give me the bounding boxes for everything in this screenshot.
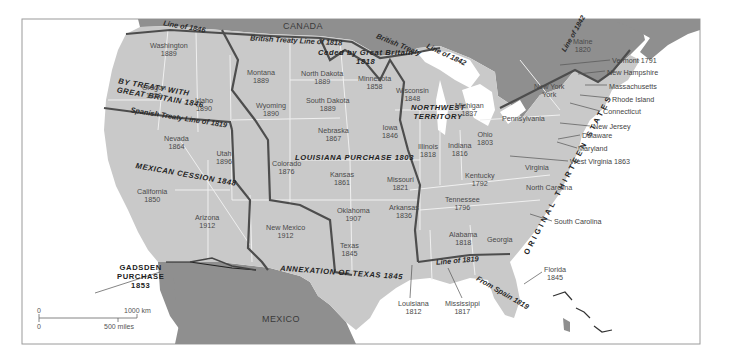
state-montana: Montana1889 (247, 69, 275, 85)
state-idaho: Idaho1890 (195, 97, 213, 113)
state-south-dakota: South Dakota1889 (306, 97, 350, 113)
state-texas: Texas1845 (340, 242, 359, 258)
state-georgia: Georgia (487, 236, 513, 244)
state-washington: Washington1889 (150, 42, 188, 58)
region-line: 1818 (356, 57, 375, 66)
gadsden-purchase-label: GADSDEN PURCHASE 1853 (117, 263, 164, 290)
callout-new-hampshire: New Hampshire (607, 68, 658, 77)
state-pennsylvania: Pennsylvania (502, 115, 545, 123)
state-virginia: Virginia (525, 164, 549, 172)
state-nebraska: Nebraska1867 (318, 127, 349, 143)
region-line: 1853 (131, 281, 150, 290)
state-wisconsin: Wisconsin1848 (396, 87, 429, 103)
scale-km-zero: 0 (37, 307, 41, 314)
state-new-york: New YorkYork (534, 83, 564, 99)
state-north-carolina: North Carolina (526, 184, 572, 192)
state-nevada: Nevada1864 (164, 135, 189, 151)
state-wyoming: Wyoming1890 (256, 102, 286, 118)
state-oregon: Oregon1859 (142, 84, 166, 100)
state-kansas: Kansas1861 (330, 171, 354, 187)
state-missouri: Missouri1821 (387, 176, 414, 192)
callout-south-carolina: South Carolina (554, 217, 602, 226)
state-arizona: Arizona1912 (195, 214, 219, 230)
state-illinois: Illinois1818 (418, 143, 438, 159)
state-tennessee: Tennessee1796 (445, 196, 480, 212)
region-line: GADSDEN (120, 263, 162, 272)
scale-mi-label: 500 miles (104, 323, 134, 330)
louisiana-purchase-label: LOUISIANA PURCHASE 1803 (295, 153, 414, 162)
region-line: PURCHASE (117, 272, 164, 281)
state-colorado: Colorado1876 (272, 160, 301, 176)
region-line: Ceded by Great Britain (318, 48, 414, 57)
state-new-mexico: New Mexico1912 (266, 224, 305, 240)
scale-mi-zero: 0 (37, 323, 41, 330)
state-indiana: Indiana1816 (448, 142, 472, 158)
callout-vermont: Vermont 1791 (612, 56, 657, 65)
state-kentucky: Kentucky1792 (465, 172, 495, 188)
scale-km-label: 1000 km (124, 307, 151, 314)
callout-louisiana: Louisiana1812 (398, 300, 429, 316)
callout-maryland: Maryland (578, 144, 608, 153)
callout-florida: Florida1845 (544, 266, 566, 282)
ceded-gb-label: Ceded by Great Britain 1818 (318, 48, 414, 66)
callout-connecticut: Connecticut (603, 107, 641, 116)
state-michigan: Michigan1837 (455, 102, 484, 118)
callout-west-virginia: West Virginia 1863 (570, 157, 630, 166)
canada-label: CANADA (283, 21, 323, 31)
state-oklahoma: Oklahoma1907 (337, 207, 370, 223)
state-maine: Maine1820 (573, 38, 593, 54)
state-california: California1850 (137, 188, 167, 204)
state-north-dakota: North Dakota1889 (301, 70, 343, 86)
callout-massachusetts: Massachusetts (609, 82, 657, 91)
state-minnesota: Minnesota1858 (358, 75, 391, 91)
mexico-label: MEXICO (262, 314, 300, 324)
state-ohio: Ohio1803 (477, 131, 493, 147)
state-alabama: Alabama1818 (449, 231, 477, 247)
callout-mississippi: Mississippi1817 (445, 300, 480, 316)
callout-new-jersey: New Jersey (593, 122, 631, 131)
callout-rhode-island: Rhode Island (612, 95, 654, 104)
state-arkansas: Arkansas1836 (389, 204, 419, 220)
state-utah: Utah1896 (216, 150, 232, 166)
callout-delaware: Delaware (582, 131, 612, 140)
state-iowa: Iowa1846 (382, 124, 398, 140)
